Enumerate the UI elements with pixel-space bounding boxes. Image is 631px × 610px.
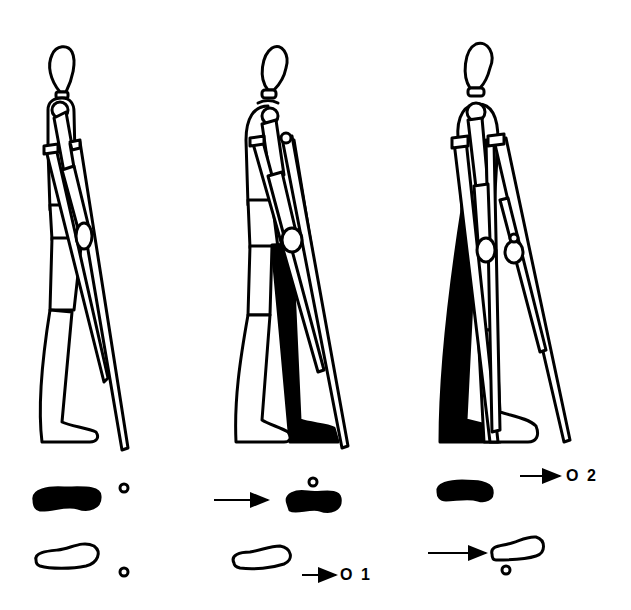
crutch-pad bbox=[488, 134, 504, 146]
figure-3 bbox=[440, 43, 570, 442]
forearm bbox=[474, 184, 490, 242]
step-label-1: O 1 bbox=[340, 567, 372, 583]
crutch-pad bbox=[452, 136, 468, 148]
neck bbox=[262, 90, 276, 98]
outline-footprint bbox=[492, 537, 544, 560]
filled-footprint bbox=[438, 481, 492, 501]
crutch-pad bbox=[250, 136, 264, 146]
crutch-pad bbox=[281, 133, 291, 143]
figure-2 bbox=[236, 46, 348, 448]
hand bbox=[282, 228, 302, 252]
crutch-pad bbox=[70, 140, 80, 150]
crutch-tip-circle bbox=[120, 568, 128, 576]
hand-knob bbox=[510, 234, 518, 242]
thigh bbox=[248, 246, 272, 315]
hand bbox=[477, 238, 495, 262]
crutch-tip-circle bbox=[502, 566, 510, 574]
head-icon bbox=[262, 46, 287, 90]
outline-footprint bbox=[36, 544, 98, 568]
footprints bbox=[34, 476, 560, 576]
figure-1 bbox=[40, 47, 128, 450]
lower-leg bbox=[40, 310, 97, 442]
crutch-pad bbox=[44, 144, 58, 154]
filled-footprint bbox=[287, 492, 340, 512]
head-icon bbox=[50, 47, 74, 92]
head-icon bbox=[465, 43, 492, 88]
hand bbox=[505, 241, 523, 263]
crutch-gait-diagram bbox=[0, 0, 631, 610]
crutch-tip-circle bbox=[309, 478, 317, 486]
filled-footprint bbox=[34, 488, 100, 510]
outline-footprint bbox=[233, 546, 290, 569]
step-label-2: O 2 bbox=[566, 468, 598, 484]
crutch-tip-circle bbox=[120, 484, 128, 492]
neck bbox=[468, 88, 484, 96]
hand bbox=[76, 223, 92, 249]
collar-arc bbox=[258, 101, 278, 103]
